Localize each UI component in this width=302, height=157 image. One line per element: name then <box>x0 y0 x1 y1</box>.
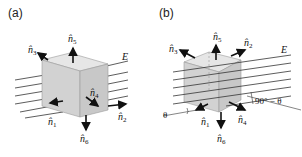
n6-label-b: n̂6 <box>217 133 226 146</box>
n3-arrow-b <box>180 50 195 58</box>
n3-arrow-a <box>38 53 48 60</box>
theta-label-b: θ <box>163 110 167 120</box>
panel-a: (a) <box>0 0 151 157</box>
n2-arrow-b <box>231 50 245 56</box>
n6-label-a: n̂6 <box>80 133 89 146</box>
n5-label-b: n̂5 <box>213 31 222 44</box>
cube-diagram-b: θ 90° − θ n̂5 n̂3 n̂2 n̂1 n̂4 n̂6 E⃗ <box>151 0 302 157</box>
n5-label-a: n̂5 <box>68 33 77 46</box>
n2-label-b: n̂2 <box>244 37 253 50</box>
n1-label-b: n̂1 <box>201 116 210 129</box>
n2-arrow-a <box>108 104 126 106</box>
n3-label-b: n̂3 <box>169 43 178 56</box>
field-label-a: E⃗ <box>121 51 136 62</box>
cube-a <box>42 53 108 117</box>
field-label-b: E⃗ <box>280 44 295 55</box>
n4-label-b: n̂4 <box>238 114 247 127</box>
complement-angle-label-b: 90° − θ <box>255 96 282 106</box>
n1-label-a: n̂1 <box>48 116 57 129</box>
panel-b: (b) <box>151 0 302 157</box>
n3-label-a: n̂3 <box>28 44 37 57</box>
n2-label-a: n̂2 <box>118 111 127 124</box>
cube-diagram-a: n̂5 n̂3 n̂1 n̂4 n̂2 n̂6 E⃗ <box>0 0 151 157</box>
